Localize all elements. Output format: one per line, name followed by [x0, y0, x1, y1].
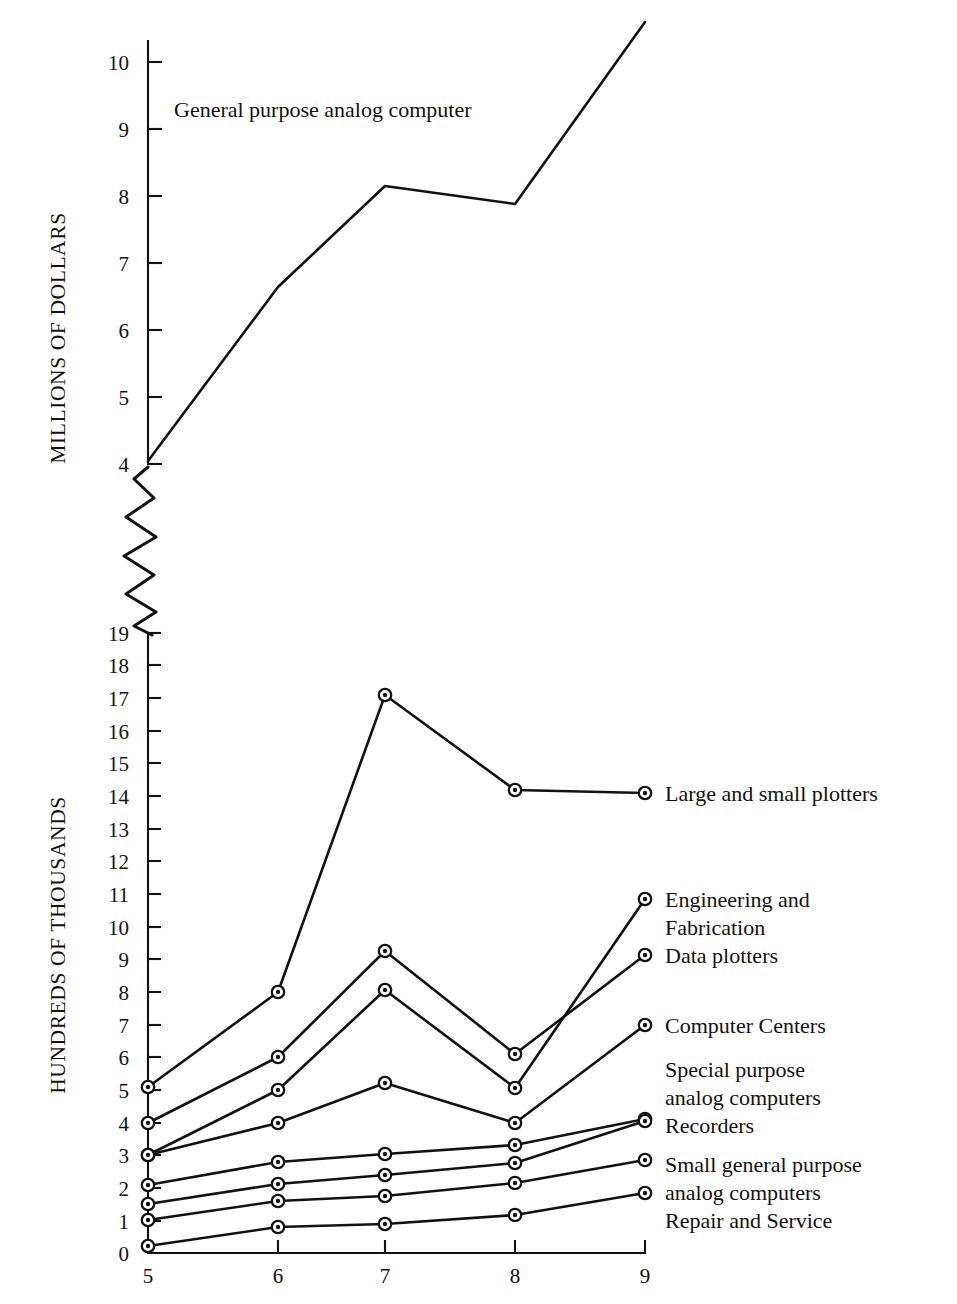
data-point-core [146, 1244, 150, 1248]
data-point-core [643, 953, 647, 957]
data-point-core [513, 1181, 517, 1185]
data-point-core [383, 1222, 387, 1226]
lower-ytick-label-13: 13 [108, 818, 129, 842]
lower-ytick-label-2: 2 [119, 1177, 130, 1201]
data-point-core [276, 1199, 280, 1203]
data-point-core [276, 990, 280, 994]
data-point-core [383, 988, 387, 992]
data-point-core [383, 1081, 387, 1085]
lower-ytick-label-11: 11 [109, 883, 129, 907]
data-point-core [146, 1202, 150, 1206]
upper-ytick-label-6: 6 [119, 319, 130, 343]
lower-ytick-label-8: 8 [119, 981, 130, 1005]
upper-ytick-label-7: 7 [119, 252, 130, 276]
data-point-core [643, 791, 647, 795]
data-point-core [276, 1055, 280, 1059]
data-point-core [146, 1085, 150, 1089]
upper-ytick-label-8: 8 [119, 185, 130, 209]
series-label-small-general-line2: analog computers [665, 1180, 821, 1205]
upper-ytick-label-4: 4 [119, 453, 130, 477]
xtick-label-8: 8 [510, 1264, 521, 1288]
data-point-core [643, 1119, 647, 1123]
lower-ytick-label-3: 3 [119, 1144, 130, 1168]
data-point-core [146, 1218, 150, 1222]
upper-ytick-label-5: 5 [119, 386, 130, 410]
upper-annotation-general-purpose: General purpose analog computer [174, 97, 472, 122]
lower-ytick-label-14: 14 [108, 785, 130, 809]
series-label-engineering-line2: Fabrication [665, 915, 765, 940]
data-point-core [383, 1173, 387, 1177]
line-chart-svg: 10 9 8 7 6 5 4 MILLIONS OF DOLLARS Gener… [0, 0, 957, 1304]
data-point-core [276, 1088, 280, 1092]
series-label-engineering-line1: Engineering and [665, 887, 810, 912]
data-point-core [146, 1153, 150, 1157]
data-point-core [513, 788, 517, 792]
xtick-label-6: 6 [273, 1264, 284, 1288]
data-point-core [383, 1194, 387, 1198]
data-point-core [513, 1143, 517, 1147]
series-label-computer-centers: Computer Centers [665, 1013, 826, 1038]
lower-ytick-label-19: 19 [108, 622, 129, 646]
lower-ytick-label-16: 16 [108, 720, 129, 744]
xtick-label-5: 5 [143, 1264, 154, 1288]
data-point-core [383, 949, 387, 953]
lower-ytick-label-1: 1 [119, 1210, 130, 1234]
data-point-core [643, 1023, 647, 1027]
series-label-special-purpose-line1: Special purpose [665, 1057, 805, 1082]
chart-figure: 10 9 8 7 6 5 4 MILLIONS OF DOLLARS Gener… [0, 0, 957, 1304]
lower-ytick-label-17: 17 [108, 687, 129, 711]
upper-ytick-label-9: 9 [119, 118, 130, 142]
lower-ytick-label-12: 12 [108, 850, 129, 874]
lower-ytick-label-5: 5 [119, 1079, 130, 1103]
data-point-core [276, 1182, 280, 1186]
data-point-core [643, 1158, 647, 1162]
lower-ytick-label-4: 4 [119, 1112, 130, 1136]
lower-ytick-label-18: 18 [108, 654, 129, 678]
data-point-core [276, 1225, 280, 1229]
series-label-large-and-small-plotters: Large and small plotters [665, 781, 878, 806]
data-point-core [146, 1121, 150, 1125]
data-point-core [146, 1183, 150, 1187]
data-point-core [276, 1121, 280, 1125]
lower-ytick-label-9: 9 [119, 948, 130, 972]
data-point-core [513, 1213, 517, 1217]
series-label-special-purpose-line2: analog computers [665, 1085, 821, 1110]
series-label-recorders: Recorders [665, 1113, 754, 1138]
data-point-core [513, 1121, 517, 1125]
lower-ytick-label-10: 10 [108, 916, 129, 940]
lower-ytick-label-7: 7 [119, 1014, 130, 1038]
data-point-core [643, 897, 647, 901]
lower-ytick-label-15: 15 [108, 752, 129, 776]
data-point-core [513, 1052, 517, 1056]
series-label-small-general-line1: Small general purpose [665, 1152, 862, 1177]
lower-ytick-label-0: 0 [119, 1242, 130, 1266]
data-point-core [513, 1161, 517, 1165]
data-point-core [643, 1191, 647, 1195]
lower-y-axis-title: HUNDREDS OF THOUSANDS [46, 796, 70, 1094]
xtick-label-7: 7 [380, 1264, 391, 1288]
series-label-repair-and-service: Repair and Service [665, 1208, 832, 1233]
series-label-data-plotters: Data plotters [665, 943, 778, 968]
lower-ytick-label-6: 6 [119, 1046, 130, 1070]
data-point-core [383, 693, 387, 697]
upper-y-axis-title: MILLIONS OF DOLLARS [46, 212, 70, 464]
upper-ytick-label-10: 10 [108, 51, 129, 75]
data-point-core [383, 1152, 387, 1156]
xtick-label-9: 9 [640, 1264, 651, 1288]
data-point-core [276, 1160, 280, 1164]
data-point-core [513, 1086, 517, 1090]
